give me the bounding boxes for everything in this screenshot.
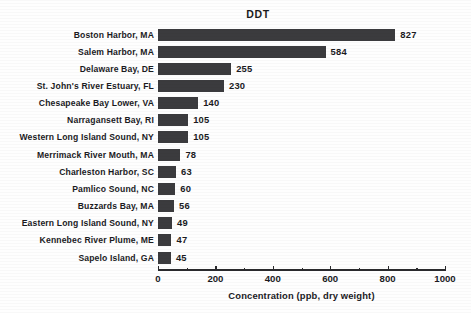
category-label: Buzzards Bay, MA <box>78 202 154 211</box>
bar <box>158 252 171 264</box>
x-axis-tick-minor <box>416 268 417 271</box>
bar <box>158 114 188 126</box>
bar-row: Chesapeake Bay Lower, VA140 <box>0 95 471 112</box>
bar-value-label: 49 <box>177 219 188 228</box>
bar-value-label: 140 <box>203 98 219 107</box>
category-label: Chesapeake Bay Lower, VA <box>39 99 154 108</box>
bar-row: Western Long Island Sound, NY105 <box>0 129 471 146</box>
category-label: St. John's River Estuary, FL <box>37 82 154 91</box>
bar-row: Pamlico Sound, NC60 <box>0 180 471 197</box>
bar <box>158 234 171 246</box>
bar <box>158 80 224 92</box>
x-axis-tick-minor <box>187 268 188 271</box>
bar <box>158 149 180 161</box>
bar-row: Sapelo Island, GA45 <box>0 249 471 266</box>
x-axis-tick-minor <box>359 268 360 271</box>
bar-value-label: 60 <box>180 184 191 193</box>
bar-row: Buzzards Bay, MA56 <box>0 198 471 215</box>
bar-value-label: 255 <box>236 64 252 73</box>
bar <box>158 46 326 58</box>
bar-value-label: 47 <box>176 236 187 245</box>
bar <box>158 97 198 109</box>
x-axis-tick-label: 1000 <box>434 273 455 284</box>
x-axis-tick-label: 800 <box>380 273 396 284</box>
category-label: Kennebec River Plume, ME <box>40 236 154 245</box>
category-label: Merrimack River Mouth, MA <box>37 150 154 159</box>
bar-value-label: 45 <box>176 253 187 262</box>
bar-value-label: 78 <box>185 150 196 159</box>
x-axis-line <box>158 269 445 271</box>
x-axis-title: Concentration (ppb, dry weight) <box>158 290 445 301</box>
bar-row: Salem Harbor, MA584 <box>0 43 471 60</box>
bar <box>158 63 231 75</box>
x-axis-tick-major <box>445 266 446 271</box>
x-axis-tick-label: 200 <box>207 273 223 284</box>
category-label: Salem Harbor, MA <box>78 47 154 56</box>
x-axis-tick-label: 0 <box>155 273 160 284</box>
category-label: Boston Harbor, MA <box>74 30 154 39</box>
bar <box>158 166 176 178</box>
category-label: Narragansett Bay, RI <box>67 116 154 125</box>
category-label: Delaware Bay, DE <box>80 65 154 74</box>
bar <box>158 131 188 143</box>
bar-value-label: 584 <box>331 47 347 56</box>
bar-value-label: 105 <box>193 116 209 125</box>
bar-row: Narragansett Bay, RI105 <box>0 112 471 129</box>
x-axis-tick-label: 600 <box>322 273 338 284</box>
x-axis-tick-minor <box>302 268 303 271</box>
category-label: Eastern Long Island Sound, NY <box>22 219 154 228</box>
category-label: Western Long Island Sound, NY <box>19 133 154 142</box>
x-axis-tick-major <box>273 266 274 271</box>
bar-row: Delaware Bay, DE255 <box>0 60 471 77</box>
bar <box>158 29 395 41</box>
bar <box>158 183 175 195</box>
bar-value-label: 230 <box>229 81 245 90</box>
bar-row: Boston Harbor, MA827 <box>0 26 471 43</box>
category-label: Charleston Harbor, SC <box>59 167 154 176</box>
category-label: Sapelo Island, GA <box>78 253 154 262</box>
bar-row: Kennebec River Plume, ME47 <box>0 232 471 249</box>
bar-row: Charleston Harbor, SC63 <box>0 163 471 180</box>
x-axis-tick-major <box>158 266 159 271</box>
bar-row: Eastern Long Island Sound, NY49 <box>0 215 471 232</box>
x-axis-tick-major <box>330 266 331 271</box>
bar <box>158 200 174 212</box>
bar-value-label: 827 <box>400 30 416 39</box>
bar-value-label: 63 <box>181 167 192 176</box>
plot-area: Boston Harbor, MA827Salem Harbor, MA584D… <box>0 26 471 271</box>
bar-row: Merrimack River Mouth, MA78 <box>0 146 471 163</box>
x-axis-tick-minor <box>244 268 245 271</box>
bar <box>158 217 172 229</box>
category-label: Pamlico Sound, NC <box>72 185 154 194</box>
x-axis-tick-label: 400 <box>265 273 281 284</box>
x-axis-tick-major <box>215 266 216 271</box>
chart-figure: DDT Boston Harbor, MA827Salem Harbor, MA… <box>0 0 471 313</box>
bar-value-label: 56 <box>179 201 190 210</box>
bar-value-label: 105 <box>193 133 209 142</box>
x-axis-tick-major <box>388 266 389 271</box>
chart-title: DDT <box>0 8 471 20</box>
bar-row: St. John's River Estuary, FL230 <box>0 77 471 94</box>
